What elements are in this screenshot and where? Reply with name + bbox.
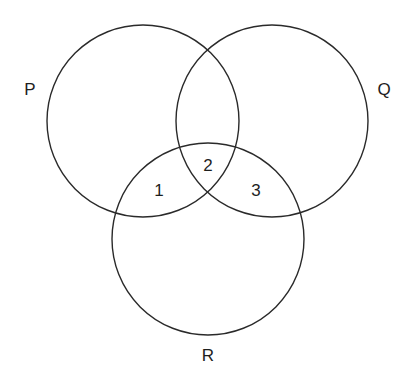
region-label-1: 1: [154, 181, 163, 200]
circle-p: [47, 25, 239, 217]
region-label-2: 2: [203, 156, 212, 175]
set-label-r: R: [202, 346, 214, 365]
set-label-q: Q: [377, 80, 390, 99]
set-label-p: P: [24, 80, 35, 99]
circle-q: [176, 25, 368, 217]
venn-diagram: P Q R 1 2 3: [0, 0, 406, 380]
region-label-3: 3: [251, 181, 260, 200]
